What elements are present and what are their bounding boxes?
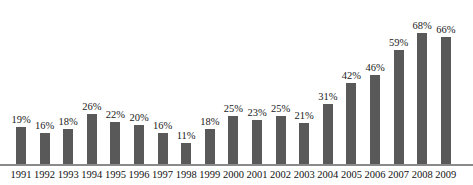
x-tick-label: 2009 (434, 167, 458, 183)
bar-group: 23% (245, 0, 269, 166)
bar (228, 116, 238, 164)
bar (87, 114, 97, 164)
bar (394, 50, 404, 164)
bar-group: 46% (363, 0, 387, 166)
x-tick-label: 1992 (33, 167, 57, 183)
x-tick-label: 2001 (245, 167, 269, 183)
bar-group: 16% (151, 0, 175, 166)
bar (370, 75, 380, 164)
x-tick-label: 1995 (103, 167, 127, 183)
bar-group: 42% (339, 0, 363, 166)
bar (346, 83, 356, 164)
x-tick-label: 1999 (198, 167, 222, 183)
bar (16, 127, 26, 164)
bar-value-label: 66% (430, 24, 462, 35)
bar (110, 122, 120, 164)
bar (441, 37, 451, 164)
x-tick-label: 2004 (316, 167, 340, 183)
x-tick-label: 1997 (151, 167, 175, 183)
bar (323, 104, 333, 164)
bar (134, 125, 144, 164)
bar (205, 129, 215, 164)
bar-group: 21% (292, 0, 316, 166)
bar-group: 16% (33, 0, 57, 166)
bar-chart: 19%16%18%26%22%20%16%11%18%25%23%25%21%3… (0, 0, 473, 185)
bar (40, 133, 50, 164)
x-tick-label: 2006 (363, 167, 387, 183)
bar (252, 120, 262, 164)
x-tick-label: 2002 (269, 167, 293, 183)
bar-group: 20% (127, 0, 151, 166)
plot-area: 19%16%18%26%22%20%16%11%18%25%23%25%21%3… (0, 0, 473, 166)
x-tick-label: 2000 (221, 167, 245, 183)
x-tick-label: 2007 (387, 167, 411, 183)
x-tick-label: 2008 (410, 167, 434, 183)
bar-group: 18% (198, 0, 222, 166)
bar-group: 31% (316, 0, 340, 166)
x-tick-label: 1996 (127, 167, 151, 183)
x-axis-line (0, 164, 473, 166)
bar (181, 143, 191, 164)
x-tick-label: 1998 (174, 167, 198, 183)
x-tick-label: 2003 (292, 167, 316, 183)
x-tick-label: 1991 (9, 167, 33, 183)
bar (158, 133, 168, 164)
bar-group: 11% (174, 0, 198, 166)
bar-group: 18% (56, 0, 80, 166)
x-axis-tick-labels: 1991199219931994199519961997199819992000… (0, 167, 473, 185)
bar-group: 19% (9, 0, 33, 166)
bar (63, 129, 73, 164)
x-tick-label: 1994 (80, 167, 104, 183)
bar-group: 26% (80, 0, 104, 166)
bar-group: 25% (221, 0, 245, 166)
bar (276, 116, 286, 164)
x-tick-label: 1993 (56, 167, 80, 183)
bar-group: 25% (269, 0, 293, 166)
bar (299, 123, 309, 164)
x-tick-label: 2005 (339, 167, 363, 183)
bar-group: 22% (103, 0, 127, 166)
bar (417, 33, 427, 164)
bar-group: 66% (434, 0, 458, 166)
